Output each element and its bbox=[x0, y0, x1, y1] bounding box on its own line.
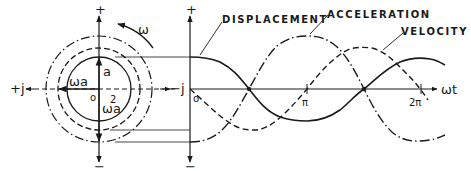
phasor-origin-label: o bbox=[90, 92, 96, 103]
displacement-leader bbox=[200, 22, 222, 55]
waveform-graph bbox=[190, 15, 445, 162]
graph-origin-label: o bbox=[193, 93, 199, 104]
crossing-marker bbox=[247, 87, 251, 91]
velocity-vector-label: ωa bbox=[69, 74, 88, 89]
acceleration-vector-exponent: 2 bbox=[110, 94, 116, 105]
tick-label-2pi: 2π bbox=[409, 97, 421, 108]
phasor-plus-label: + bbox=[95, 2, 106, 17]
plus-j-label: +j bbox=[10, 81, 25, 96]
velocity-label: VELOCITY bbox=[401, 26, 468, 37]
displacement-label: DISPLACEMENT bbox=[222, 14, 328, 25]
harmonic-motion-diagram: + − +j −j o ω a ωa ωa 2 + − o ωt π 2π DI… bbox=[0, 0, 471, 171]
phasor-diagram bbox=[26, 16, 190, 162]
graph-plus-label: + bbox=[186, 2, 197, 17]
omega-label: ω bbox=[138, 22, 149, 37]
displacement-vector-label: a bbox=[103, 64, 111, 79]
minus-j-label: −j bbox=[170, 81, 185, 96]
crossing-marker bbox=[362, 87, 366, 91]
graph-minus-label: − bbox=[185, 159, 196, 171]
x-axis-label: ωt bbox=[441, 82, 457, 97]
velocity-leader bbox=[383, 33, 403, 50]
phasor-minus-label: − bbox=[94, 159, 105, 171]
acceleration-label: ACCELERATION bbox=[327, 9, 431, 20]
tick-label-pi: π bbox=[302, 97, 308, 108]
